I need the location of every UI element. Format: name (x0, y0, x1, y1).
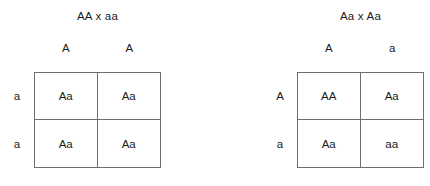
column-header-1-0: A (297, 41, 361, 55)
row-labels-1: A a (269, 72, 291, 168)
column-headers-1: A a (297, 41, 424, 55)
punnett-cell-1-0-0: AA (298, 73, 361, 120)
row-label-0-1: a (6, 120, 28, 168)
row-label-1-1: a (269, 120, 291, 168)
punnett-cell-0-0-1: Aa (98, 73, 161, 120)
punnett-cell-0-1-1: Aa (98, 120, 161, 167)
column-headers-0: A A (34, 41, 161, 55)
punnett-cell-1-1-1: aa (361, 120, 424, 167)
punnett-squares-diagram: AA x aa A A a a Aa Aa Aa Aa Aa x Aa A a … (0, 0, 430, 186)
row-label-0-0: a (6, 72, 28, 120)
punnett-grid-0: Aa Aa Aa Aa (34, 72, 161, 168)
punnett-grid-1: AA Aa Aa aa (297, 72, 424, 168)
punnett-cell-0-0-0: Aa (35, 73, 98, 120)
punnett-cell-1-0-1: Aa (361, 73, 424, 120)
row-labels-0: a a (6, 72, 28, 168)
column-header-0-1: A (98, 41, 162, 55)
row-label-1-0: A (269, 72, 291, 120)
column-header-0-0: A (34, 41, 98, 55)
punnett-cell-1-1-0: Aa (298, 120, 361, 167)
cross-title-0: AA x aa (34, 9, 161, 23)
cross-title-1: Aa x Aa (297, 9, 424, 23)
punnett-cell-0-1-0: Aa (35, 120, 98, 167)
column-header-1-1: a (361, 41, 425, 55)
